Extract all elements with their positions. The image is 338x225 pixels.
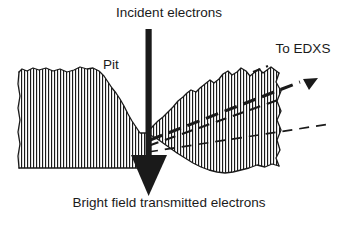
label-incident-electrons: Incident electrons [116, 6, 222, 20]
transmitted-beam-arrow [131, 155, 167, 196]
edxs-pit-figure: Incident electrons To EDXS Pit Bright fi… [0, 0, 338, 225]
edxs-ray-arrowhead-icon [303, 78, 318, 90]
figure-drawing [0, 0, 338, 225]
transmitted-beam-arrowhead-icon [131, 155, 167, 196]
label-to-edxs: To EDXS [276, 42, 331, 56]
label-bright-field-transmitted-electrons: Bright field transmitted electrons [73, 196, 266, 210]
incident-beam-arrow [146, 29, 152, 160]
label-pit: Pit [103, 58, 119, 72]
specimen-right-slab [145, 62, 285, 177]
incident-beam-shaft [146, 29, 152, 160]
specimen-left-slab [18, 64, 150, 172]
specimen-right-hatch [145, 62, 285, 177]
